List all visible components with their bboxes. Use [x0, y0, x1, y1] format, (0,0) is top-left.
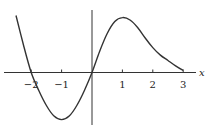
function-curve — [16, 16, 183, 120]
x-axis-label: x — [199, 67, 205, 78]
x-tick-label: −1 — [54, 79, 69, 90]
function-plot: −2−1123 x — [0, 0, 211, 131]
x-tick-label: 1 — [119, 79, 125, 90]
x-tick-label: 3 — [180, 79, 186, 90]
x-tick-label: 2 — [150, 79, 156, 90]
